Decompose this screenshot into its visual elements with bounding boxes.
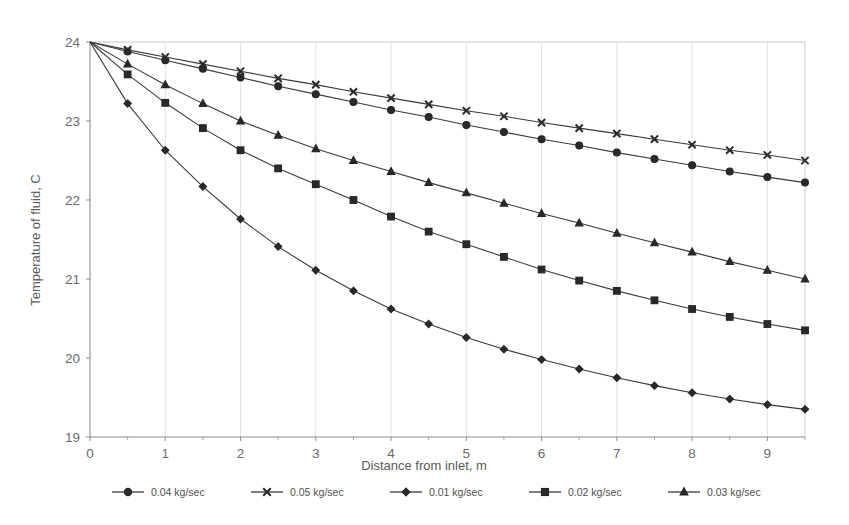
y-tick-label: 23 bbox=[65, 114, 80, 129]
data-point-marker-circle bbox=[237, 74, 244, 81]
y-tick-label: 20 bbox=[65, 351, 80, 366]
y-tick-label: 24 bbox=[65, 35, 81, 50]
data-point-marker-circle bbox=[764, 174, 771, 181]
y-tick-label: 21 bbox=[65, 272, 80, 287]
data-point-marker-square bbox=[124, 71, 131, 78]
data-point-marker-circle bbox=[802, 179, 809, 186]
data-point-marker-square bbox=[350, 197, 357, 204]
data-point-marker-circle bbox=[576, 142, 583, 149]
data-point-marker-circle bbox=[463, 122, 470, 129]
x-tick-label: 2 bbox=[237, 446, 245, 461]
x-tick-label: 6 bbox=[538, 446, 546, 461]
data-point-marker-circle bbox=[501, 129, 508, 136]
data-point-marker-circle bbox=[124, 488, 131, 495]
data-point-marker-circle bbox=[425, 114, 432, 121]
data-point-marker-square bbox=[425, 228, 432, 235]
data-point-marker-circle bbox=[312, 91, 319, 98]
data-point-marker-square bbox=[726, 314, 733, 321]
x-tick-label: 7 bbox=[613, 446, 621, 461]
data-point-marker-circle bbox=[726, 168, 733, 175]
data-point-marker-circle bbox=[350, 99, 357, 106]
data-point-marker-circle bbox=[613, 149, 620, 156]
data-point-marker-square bbox=[538, 266, 545, 273]
data-point-marker-square bbox=[576, 277, 583, 284]
data-point-marker-square bbox=[312, 181, 319, 188]
y-tick-label: 19 bbox=[65, 430, 80, 445]
data-point-marker-square bbox=[764, 321, 771, 328]
data-point-marker-circle bbox=[651, 156, 658, 163]
legend-label: 0.01 kg/sec bbox=[429, 486, 483, 498]
data-point-marker-circle bbox=[689, 162, 696, 169]
y-tick-label: 22 bbox=[65, 193, 80, 208]
legend-label: 0.02 kg/sec bbox=[568, 486, 622, 498]
chart-figure: 0123456789 192021222324 0.04 kg/sec0.05 … bbox=[0, 0, 849, 525]
legend-label: 0.03 kg/sec bbox=[707, 486, 761, 498]
chart-background bbox=[0, 0, 849, 525]
temperature-vs-distance-chart: 0123456789 192021222324 0.04 kg/sec0.05 … bbox=[0, 0, 849, 525]
data-point-marker-square bbox=[463, 241, 470, 248]
data-point-marker-square bbox=[501, 254, 508, 261]
data-point-marker-square bbox=[689, 306, 696, 313]
legend-label: 0.05 kg/sec bbox=[290, 486, 344, 498]
x-tick-label: 0 bbox=[86, 446, 94, 461]
legend-label: 0.04 kg/sec bbox=[151, 486, 205, 498]
data-point-marker-circle bbox=[388, 107, 395, 114]
data-point-marker-square bbox=[237, 147, 244, 154]
data-point-marker-square bbox=[802, 327, 809, 334]
data-point-marker-square bbox=[200, 125, 207, 132]
y-axis-title: Temperature of fluid, C bbox=[28, 174, 43, 306]
data-point-marker-square bbox=[388, 213, 395, 220]
data-point-marker-circle bbox=[538, 136, 545, 143]
data-point-marker-circle bbox=[275, 83, 282, 90]
x-tick-label: 1 bbox=[162, 446, 170, 461]
data-point-marker-square bbox=[614, 288, 621, 295]
data-point-marker-square bbox=[162, 100, 169, 107]
x-axis-title: Distance from inlet, m bbox=[361, 458, 487, 473]
data-point-marker-square bbox=[275, 165, 282, 172]
x-tick-label: 9 bbox=[764, 446, 772, 461]
data-point-marker-square bbox=[542, 489, 549, 496]
x-tick-label: 3 bbox=[312, 446, 320, 461]
x-tick-label: 8 bbox=[688, 446, 696, 461]
data-point-marker-square bbox=[651, 297, 658, 304]
